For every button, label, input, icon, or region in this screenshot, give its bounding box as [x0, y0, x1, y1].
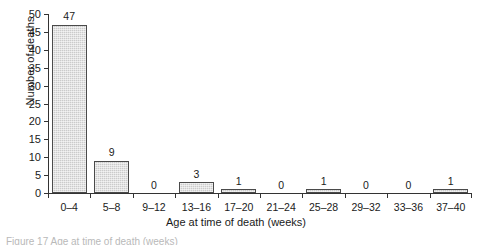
x-tick-label: 33–36 [394, 202, 423, 213]
x-tick-mark [471, 194, 472, 198]
x-tick-label: 17–20 [224, 202, 253, 213]
x-tick-mark [260, 194, 261, 198]
x-tick-mark [345, 194, 346, 198]
x-tick-label: 25–28 [309, 202, 338, 213]
x-tick-label: 21–24 [267, 202, 296, 213]
bar-slot: 9 [90, 14, 132, 193]
x-tick-label: 5–8 [103, 202, 121, 213]
bar-value-label: 0 [387, 180, 429, 191]
y-tick-label: 20 [0, 116, 48, 127]
y-tick-label: 40 [0, 44, 48, 55]
y-tick-label: 15 [0, 134, 48, 145]
x-tick-mark [218, 194, 219, 198]
y-tick-label: 50 [0, 9, 48, 20]
bar-slot: 0 [387, 14, 429, 193]
x-tick-label: 37–40 [436, 202, 465, 213]
bar-value-label: 1 [302, 176, 344, 187]
bar-slot: 1 [218, 14, 260, 193]
x-tick-mark [90, 194, 91, 198]
bar-series: 47903101001 [48, 14, 472, 193]
bar-slot: 0 [133, 14, 175, 193]
y-tick-label: 0 [0, 188, 48, 199]
x-tick-label: 29–32 [351, 202, 380, 213]
bar[interactable] [221, 189, 256, 193]
y-tick-label: 35 [0, 62, 48, 73]
bar-value-label: 0 [345, 180, 387, 191]
y-tick-label: 10 [0, 152, 48, 163]
plot-area: 05101520253035404550 47903101001 0–45–89… [48, 14, 472, 193]
bar-value-label: 47 [48, 11, 90, 22]
bar-value-label: 0 [133, 180, 175, 191]
bar-slot: 47 [48, 14, 90, 193]
bar[interactable] [94, 161, 129, 193]
bar-value-label: 0 [260, 180, 302, 191]
x-tick-mark [430, 194, 431, 198]
x-tick-label: 13–16 [182, 202, 211, 213]
y-tick-label: 25 [0, 98, 48, 109]
x-tick-mark [387, 194, 388, 198]
bar-slot: 0 [260, 14, 302, 193]
x-axis-title: Age at time of death (weeks) [0, 216, 472, 228]
bar-slot: 0 [345, 14, 387, 193]
x-tick-mark [302, 194, 303, 198]
x-tick-label: 0–4 [60, 202, 78, 213]
y-tick-label: 5 [0, 170, 48, 181]
bar[interactable] [306, 189, 341, 193]
x-tick-mark [133, 194, 134, 198]
figure-caption: Figure 17 Age at time of death (weeks) [6, 236, 476, 245]
x-tick-mark [48, 194, 49, 198]
y-tick-label: 30 [0, 80, 48, 91]
bar[interactable] [52, 25, 87, 193]
bar-slot: 1 [430, 14, 472, 193]
bar-value-label: 1 [430, 176, 472, 187]
x-tick-label: 9–12 [142, 202, 165, 213]
bar-value-label: 3 [175, 169, 217, 180]
bar[interactable] [179, 182, 214, 193]
bar[interactable] [433, 189, 468, 193]
figure-container: Number of deaths 05101520253035404550 47… [0, 0, 479, 245]
x-tick-mark [175, 194, 176, 198]
bar-slot: 1 [302, 14, 344, 193]
bar-slot: 3 [175, 14, 217, 193]
bar-value-label: 1 [218, 176, 260, 187]
y-tick-label: 45 [0, 26, 48, 37]
bar-value-label: 9 [90, 147, 132, 158]
